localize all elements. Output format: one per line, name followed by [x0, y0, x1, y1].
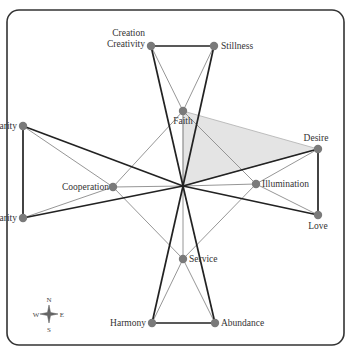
- node-label-cooperation: Cooperation: [62, 182, 109, 192]
- node-label-line: Cooperation: [62, 182, 109, 192]
- node-label-line: Stillness: [221, 41, 254, 51]
- node-label-creativity: CreationCreativity: [107, 28, 145, 49]
- node-stillness[interactable]: [210, 42, 218, 50]
- node-cooperation[interactable]: [109, 183, 117, 191]
- node-label-desire: Desire: [304, 133, 329, 143]
- node-label-harmony: Harmony: [110, 318, 146, 328]
- node-harmony[interactable]: [148, 319, 156, 327]
- node-label-love: Love: [308, 221, 328, 231]
- node-illumination[interactable]: [252, 180, 260, 188]
- node-label-line: Charity: [0, 121, 17, 131]
- node-label-line: Love: [308, 221, 328, 231]
- node-label-abundance: Abundance: [221, 318, 264, 328]
- node-label-clarity: Clarity: [0, 213, 17, 223]
- node-label-line: Illumination: [262, 179, 309, 189]
- compass-south: S: [47, 326, 51, 334]
- node-faith[interactable]: [179, 107, 187, 115]
- node-creativity[interactable]: [147, 42, 155, 50]
- node-label-line: Desire: [304, 133, 329, 143]
- node-label-charity: Charity: [0, 121, 17, 131]
- node-clarity[interactable]: [19, 214, 27, 222]
- node-label-illumination: Illumination: [262, 179, 309, 189]
- compass-north: N: [46, 296, 51, 304]
- node-label-stillness: Stillness: [221, 41, 254, 51]
- node-label-line: Faith: [173, 116, 193, 126]
- node-label-line: Creation: [112, 28, 145, 38]
- node-desire[interactable]: [314, 145, 322, 153]
- compass-west: W: [33, 311, 40, 319]
- virtue-diagram: CreationCreativityStillnessFaithCharityD…: [0, 0, 352, 352]
- node-label-line: Service: [189, 254, 218, 264]
- compass-east: E: [60, 311, 64, 319]
- node-abundance[interactable]: [211, 319, 219, 327]
- diagram-frame: [7, 10, 344, 345]
- node-label-line: Abundance: [221, 318, 264, 328]
- node-label-line: Creativity: [107, 39, 145, 49]
- node-love[interactable]: [314, 211, 322, 219]
- node-label-faith: Faith: [173, 116, 193, 126]
- node-label-service: Service: [189, 254, 218, 264]
- node-label-line: Clarity: [0, 213, 17, 223]
- node-charity[interactable]: [19, 122, 27, 130]
- node-service[interactable]: [179, 255, 187, 263]
- node-label-line: Harmony: [110, 318, 146, 328]
